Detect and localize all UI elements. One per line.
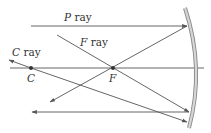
c-ray-reflected	[9, 60, 31, 68]
p-ray-label: P ray	[64, 12, 92, 23]
p-ray-word: ray	[71, 11, 92, 23]
c-ray-word: ray	[20, 46, 41, 58]
c-ray-label: C ray	[12, 47, 41, 58]
point-c-marker	[29, 66, 33, 70]
c-ray-letter: C	[12, 46, 20, 58]
p-ray-reflected	[50, 26, 187, 102]
f-ray-word: ray	[87, 36, 108, 48]
point-c-label: C	[27, 73, 35, 84]
point-f-label: F	[109, 73, 116, 84]
f-ray-label: F ray	[80, 37, 108, 48]
f-ray-incident	[57, 35, 189, 112]
ray-diagram	[0, 0, 211, 133]
point-f-marker	[111, 66, 115, 70]
